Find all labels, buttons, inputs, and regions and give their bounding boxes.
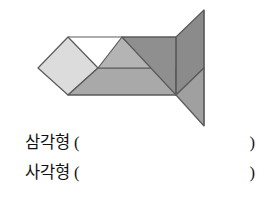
quadrilateral-paren-open: (: [74, 163, 80, 182]
triangle-paren-close: ): [250, 128, 256, 158]
quadrilateral-count-line: 사각형( ): [0, 158, 278, 188]
answer-lines: 삼각형( ) 사각형( ): [0, 128, 278, 197]
quadrilateral-label: 사각형: [25, 163, 70, 182]
figure-area: [0, 0, 278, 130]
tangram-fish-figure: [0, 0, 278, 130]
quadrilateral-paren-close: ): [250, 158, 256, 188]
triangle-label: 삼각형: [25, 133, 70, 152]
triangle-paren-open: (: [74, 133, 80, 152]
worksheet-page: 삼각형( ) 사각형( ): [0, 0, 278, 197]
triangle-count-line: 삼각형( ): [0, 128, 278, 158]
